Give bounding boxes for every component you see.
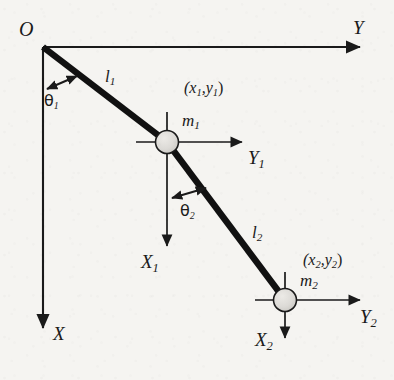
- mass1-coord-close: ): [218, 79, 223, 96]
- mass2-x-axis-subscript: 2: [267, 339, 273, 353]
- mass1-y-axis-subscript: 1: [259, 157, 265, 171]
- theta2-label: θ2: [180, 203, 195, 221]
- mass2-y-axis-subscript: 2: [371, 316, 377, 330]
- theta1-subscript: 1: [54, 100, 59, 111]
- mass2-coord-open: (x: [303, 251, 315, 268]
- global-y-axis-label: Y: [353, 18, 364, 37]
- mass2-x-axis-symbol: X: [255, 329, 267, 350]
- theta1-angle-arrow: [47, 76, 77, 89]
- theta1-symbol: θ: [44, 91, 54, 110]
- mass1-x-axis-symbol: X: [141, 251, 153, 272]
- mass2-x-axis-label: X2: [255, 330, 273, 352]
- mass2-coord-close: ): [337, 251, 342, 268]
- link-2-length-label: l2: [252, 224, 262, 243]
- link-1-length-label: l1: [105, 68, 115, 87]
- mass1-x-axis-subscript: 1: [153, 261, 159, 275]
- mass1-coord-open: (x: [184, 79, 196, 96]
- pendulum-diagram: O Y X l1 l2 θ1 θ2 m1 (x1,y1) Y1 X1 m2 (x…: [0, 0, 394, 380]
- link-2-rod: [167, 142, 285, 300]
- mass1-x-axis-label: X1: [141, 252, 159, 274]
- global-x-axis-label: X: [53, 324, 65, 343]
- mass2-y-axis-symbol: Y: [360, 306, 371, 327]
- mass1-coord-mid: ,y: [202, 79, 213, 96]
- theta2-angle-arrow: [172, 188, 206, 198]
- mass1-y-axis-symbol: Y: [248, 147, 259, 168]
- link-1-rod: [43, 47, 167, 142]
- angle-indicators: [47, 76, 206, 198]
- mass1-bob: [156, 131, 179, 154]
- mass1-subscript: 1: [194, 119, 200, 131]
- origin-label: O: [19, 19, 33, 39]
- mass2-label: m2: [300, 272, 318, 291]
- mass1-coordinate-label: (x1,y1): [184, 80, 223, 99]
- mass1-y-axis-label: Y1: [248, 148, 265, 170]
- mass2-subscript: 2: [312, 279, 318, 291]
- mass2-coord-mid: ,y: [321, 251, 332, 268]
- mass1-symbol: m: [182, 111, 194, 130]
- theta2-subscript: 2: [190, 210, 195, 221]
- theta2-symbol: θ: [180, 201, 190, 220]
- mass2-symbol: m: [300, 271, 312, 290]
- mass2-coordinate-label: (x2,y2): [303, 252, 342, 271]
- link-2-length-subscript: 2: [257, 231, 263, 243]
- mass1-label: m1: [182, 112, 200, 131]
- mass2-y-axis-label: Y2: [360, 307, 377, 329]
- mass2-bob: [274, 289, 297, 312]
- link-1-length-subscript: 1: [110, 75, 116, 87]
- theta1-label: θ1: [44, 93, 59, 111]
- pendulum-links: [43, 47, 285, 300]
